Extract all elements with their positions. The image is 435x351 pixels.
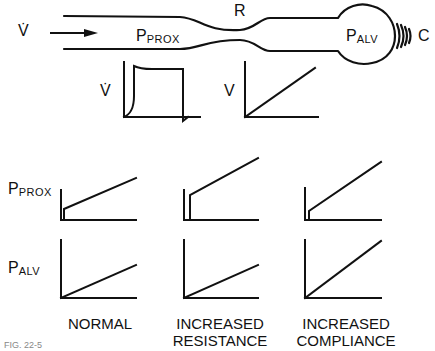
flow-waveform-label: V̇ — [100, 83, 111, 99]
column-caption-increased-resistance: INCREASED RESISTANCE — [170, 315, 270, 349]
proximal-pressure-label: PPROX — [136, 28, 180, 45]
compliance-arc-4 — [409, 29, 411, 43]
row-label-palv: PALV — [8, 260, 40, 277]
compliance-label: C — [418, 28, 430, 44]
alveolar-pressure-label: PALV — [346, 28, 378, 45]
figure-caption-fragment: FIG. 22-5 — [4, 340, 42, 350]
compliance-arc-2 — [401, 25, 404, 47]
flow-square-wave — [124, 66, 188, 121]
respiratory-mechanics-diagram — [0, 0, 435, 351]
resistance-label: R — [234, 3, 246, 19]
column-caption-normal: NORMAL — [64, 315, 136, 332]
volume-waveform-label: V — [224, 83, 235, 99]
row-label-pprox: PPROX — [8, 181, 52, 198]
column-caption-increased-compliance: INCREASED COMPLIANCE — [293, 315, 399, 349]
volume-ramp — [245, 68, 315, 117]
compliance-arc-3 — [405, 27, 407, 45]
flow-label: V̇ — [18, 23, 29, 39]
flow-arrow-icon — [50, 29, 98, 37]
compliance-arc-1 — [397, 24, 400, 48]
